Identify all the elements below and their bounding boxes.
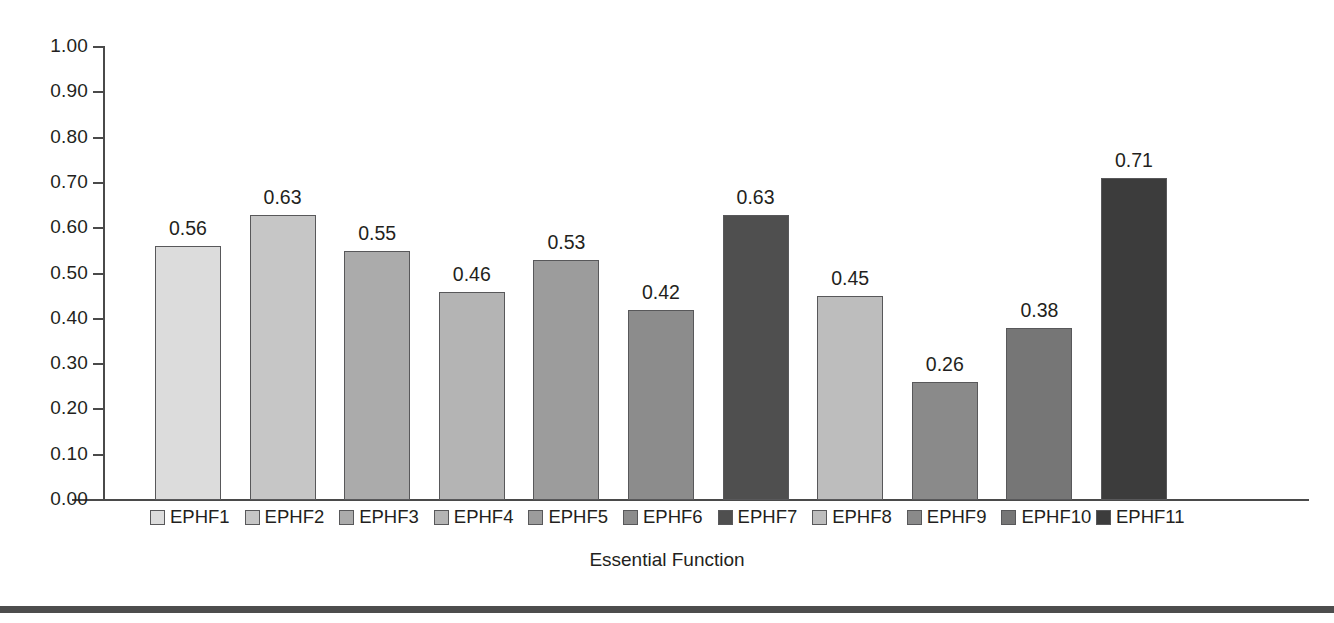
legend-label: EPHF5: [548, 508, 608, 527]
legend-item-ephf8[interactable]: EPHF8: [812, 508, 892, 527]
bar-ephf4[interactable]: [439, 292, 505, 500]
bar-ephf9[interactable]: [912, 382, 978, 500]
legend-swatch-icon: [1096, 510, 1111, 525]
bar-group: 0.42: [628, 47, 694, 500]
chart-legend: EPHF1EPHF2EPHF3EPHF4EPHF5EPHF6EPHF7EPHF8…: [104, 508, 1309, 534]
legend-swatch-icon: [623, 510, 638, 525]
y-tick-mark: [93, 137, 104, 139]
legend-swatch-icon: [339, 510, 354, 525]
y-tick-label: 0.70: [28, 171, 88, 193]
y-tick-label: 0.20: [28, 397, 88, 419]
footer-rule: [0, 606, 1334, 613]
legend-swatch-icon: [1001, 510, 1016, 525]
legend-swatch-icon: [245, 510, 260, 525]
bar-value-label: 0.42: [606, 281, 716, 304]
bar-group: 0.26: [912, 47, 978, 500]
y-tick-label: 0.60: [28, 216, 88, 238]
y-tick-label: 0.80: [28, 126, 88, 148]
bar-value-label: 0.71: [1079, 149, 1189, 172]
legend-label: EPHF1: [170, 508, 230, 527]
legend-item-ephf2[interactable]: EPHF2: [245, 508, 325, 527]
legend-label: EPHF8: [832, 508, 892, 527]
bar-value-label: 0.56: [133, 217, 243, 240]
y-tick-label: 0.30: [28, 352, 88, 374]
y-tick-mark: [93, 499, 104, 501]
plot-area: 1.000.900.800.700.600.500.400.300.200.10…: [104, 47, 1309, 500]
y-tick-mark: [93, 318, 104, 320]
legend-swatch-icon: [528, 510, 543, 525]
y-tick-label: 0.10: [28, 443, 88, 465]
bar-group: 0.71: [1101, 47, 1167, 500]
legend-item-ephf3[interactable]: EPHF3: [339, 508, 419, 527]
legend-label: EPHF11: [1116, 508, 1185, 527]
y-tick-label: 1.00: [28, 35, 88, 57]
x-axis-title: Essential Function: [0, 549, 1334, 571]
bar-value-label: 0.26: [890, 353, 1000, 376]
bar-group: 0.63: [723, 47, 789, 500]
legend-item-ephf7[interactable]: EPHF7: [718, 508, 798, 527]
bar-group: 0.46: [439, 47, 505, 500]
bar-ephf11[interactable]: [1101, 178, 1167, 500]
legend-item-ephf9[interactable]: EPHF9: [907, 508, 987, 527]
legend-item-ephf10[interactable]: EPHF10: [1001, 508, 1091, 527]
bar-value-label: 0.38: [984, 299, 1094, 322]
bar-value-label: 0.46: [417, 263, 527, 286]
bar-value-label: 0.45: [795, 267, 905, 290]
y-tick-label: 0.50: [28, 262, 88, 284]
legend-label: EPHF3: [359, 508, 419, 527]
legend-item-ephf6[interactable]: EPHF6: [623, 508, 703, 527]
legend-label: EPHF10: [1021, 508, 1091, 527]
legend-item-ephf4[interactable]: EPHF4: [434, 508, 514, 527]
bar-group: 0.45: [817, 47, 883, 500]
legend-item-ephf5[interactable]: EPHF5: [528, 508, 608, 527]
y-tick-mark: [93, 454, 104, 456]
y-tick-label: 0.40: [28, 307, 88, 329]
bar-value-label: 0.63: [701, 186, 811, 209]
legend-label: EPHF4: [454, 508, 514, 527]
bar-group: 0.53: [533, 47, 599, 500]
legend-swatch-icon: [812, 510, 827, 525]
bar-group: 0.55: [344, 47, 410, 500]
bar-value-label: 0.53: [511, 231, 621, 254]
bar-group: 0.38: [1006, 47, 1072, 500]
bar-ephf1[interactable]: [155, 246, 221, 500]
bar-value-label: 0.55: [322, 222, 432, 245]
y-tick-mark: [93, 363, 104, 365]
bar-group: 0.63: [250, 47, 316, 500]
bar-value-label: 0.63: [228, 186, 338, 209]
bar-ephf3[interactable]: [344, 251, 410, 500]
bar-group: 0.56: [155, 47, 221, 500]
legend-label: EPHF6: [643, 508, 703, 527]
legend-swatch-icon: [434, 510, 449, 525]
bar-ephf6[interactable]: [628, 310, 694, 500]
y-tick-mark: [93, 408, 104, 410]
legend-swatch-icon: [907, 510, 922, 525]
legend-item-ephf1[interactable]: EPHF1: [150, 508, 230, 527]
bar-ephf5[interactable]: [533, 260, 599, 500]
y-tick-mark: [93, 91, 104, 93]
y-tick-mark: [93, 46, 104, 48]
legend-swatch-icon: [718, 510, 733, 525]
legend-swatch-icon: [150, 510, 165, 525]
bar-chart-figure: 1.000.900.800.700.600.500.400.300.200.10…: [0, 0, 1334, 623]
bar-ephf8[interactable]: [817, 296, 883, 500]
y-tick-mark: [93, 182, 104, 184]
bar-ephf2[interactable]: [250, 215, 316, 500]
legend-label: EPHF9: [927, 508, 987, 527]
y-tick-label: 0.00: [28, 488, 88, 510]
legend-label: EPHF2: [265, 508, 325, 527]
bar-ephf10[interactable]: [1006, 328, 1072, 500]
y-tick-label: 0.90: [28, 80, 88, 102]
legend-item-ephf11[interactable]: EPHF11: [1096, 508, 1185, 527]
bar-ephf7[interactable]: [723, 215, 789, 500]
legend-label: EPHF7: [738, 508, 798, 527]
y-tick-mark: [93, 227, 104, 229]
y-tick-mark: [93, 273, 104, 275]
